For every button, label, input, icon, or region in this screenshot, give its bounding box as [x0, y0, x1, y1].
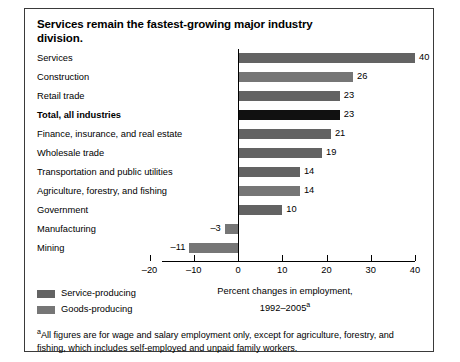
bar-value-label: 14	[304, 184, 314, 196]
chart-row: Wholesale trade19	[25, 144, 433, 163]
bar	[238, 72, 353, 82]
x-axis-tick-label: –10	[186, 264, 202, 276]
bar-value-label: –3	[203, 222, 221, 234]
x-axis-tick-label: 30	[366, 264, 376, 276]
category-label: Total, all industries	[37, 109, 209, 121]
x-axis-caption: Percent changes in employment, 1992–2005…	[185, 285, 385, 315]
x-axis-tick-label: 20	[321, 264, 331, 276]
bar	[225, 224, 238, 234]
footnote-text: All figures are for wage and salary empl…	[37, 330, 394, 353]
category-label: Wholesale trade	[37, 147, 209, 159]
x-axis-caption-line1: Percent changes in employment,	[185, 285, 385, 298]
x-axis-tick	[282, 255, 283, 261]
bar	[238, 148, 322, 158]
category-label: Services	[37, 52, 209, 64]
x-axis-line	[162, 261, 415, 262]
legend-swatch-icon	[37, 290, 55, 298]
bar	[238, 129, 331, 139]
category-label: Retail trade	[37, 90, 209, 102]
x-axis-tick	[238, 255, 239, 261]
x-axis-tick-label: 10	[277, 264, 287, 276]
category-label: Transportation and public utilities	[37, 166, 209, 178]
bar-value-label: –11	[167, 241, 185, 253]
bar-value-label: 19	[326, 146, 336, 158]
bar-value-label: 21	[335, 127, 345, 139]
x-axis-tick-label: 40	[410, 264, 420, 276]
bar-value-label: 23	[344, 89, 354, 101]
x-axis-tick-label: –20	[142, 264, 158, 276]
chart-row: Construction26	[25, 68, 433, 87]
bar	[238, 110, 340, 120]
chart-footnote: aAll figures are for wage and salary emp…	[37, 325, 423, 355]
x-axis-tick-label: 0	[235, 264, 240, 276]
bar	[238, 53, 415, 63]
x-axis-caption-line2: 1992–2005a	[185, 298, 385, 315]
chart-title: Services remain the fastest-growing majo…	[37, 17, 337, 45]
bar-value-label: 23	[344, 108, 354, 120]
legend-label: Goods-producing	[61, 303, 132, 316]
bar	[238, 167, 300, 177]
chart-row: Government10	[25, 201, 433, 220]
legend-label: Service-producing	[61, 287, 136, 300]
x-axis-tick	[194, 255, 195, 261]
x-axis-caption-years: 1992–2005	[260, 303, 307, 313]
bar-value-label: 14	[304, 165, 314, 177]
chart-row: Manufacturing–3	[25, 220, 433, 239]
bar	[189, 243, 238, 253]
chart-row: Mining–11	[25, 239, 433, 258]
chart-row: Agriculture, forestry, and fishing14	[25, 182, 433, 201]
category-label: Manufacturing	[37, 223, 209, 235]
bar-value-label: 40	[419, 51, 429, 63]
chart-row: Finance, insurance, and real estate21	[25, 125, 433, 144]
category-label: Government	[37, 204, 209, 216]
bar	[238, 205, 282, 215]
x-axis-tick	[150, 255, 151, 261]
bar-value-label: 10	[286, 203, 296, 215]
bar	[238, 186, 300, 196]
chart-row: Transportation and public utilities14	[25, 163, 433, 182]
x-axis-caption-footnote-marker: a	[306, 301, 310, 308]
category-label: Construction	[37, 71, 209, 83]
x-axis-tick	[327, 255, 328, 261]
chart-row: Retail trade23	[25, 87, 433, 106]
category-label: Finance, insurance, and real estate	[37, 128, 209, 140]
plot-area: Services40Construction26Retail trade23To…	[25, 49, 433, 261]
bar-value-label: 26	[357, 70, 367, 82]
zero-axis-line	[238, 49, 239, 261]
chart-row: Services40	[25, 49, 433, 68]
legend-swatch-icon	[37, 306, 55, 314]
chart-row: Total, all industries23	[25, 106, 433, 125]
chart-figure: Services remain the fastest-growing majo…	[24, 8, 434, 352]
bar	[238, 91, 340, 101]
x-axis-tick	[371, 255, 372, 261]
category-label: Agriculture, forestry, and fishing	[37, 185, 209, 197]
x-axis-tick	[415, 255, 416, 261]
